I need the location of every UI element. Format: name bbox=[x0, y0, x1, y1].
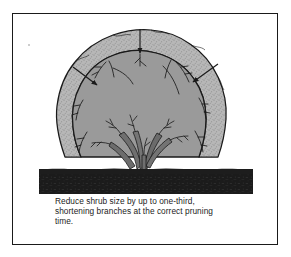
figure-frame: Reduce shrub size by up to one-third, sh… bbox=[12, 13, 278, 245]
caption-line-3: time. bbox=[55, 216, 260, 226]
illustration-svg bbox=[13, 14, 277, 194]
stem-6 bbox=[142, 155, 146, 170]
shrub-pruning-illustration bbox=[13, 14, 277, 194]
caption-line-2: shortening branches at the correct pruni… bbox=[55, 206, 260, 216]
soil-band bbox=[39, 168, 253, 194]
figure-root: Reduce shrub size by up to one-third, sh… bbox=[0, 0, 291, 257]
caption: Reduce shrub size by up to one-third, sh… bbox=[55, 196, 260, 227]
caption-line-1: Reduce shrub size by up to one-third, bbox=[55, 196, 260, 206]
